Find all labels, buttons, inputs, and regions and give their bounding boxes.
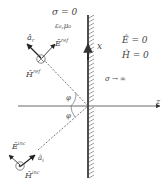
incident-e-field-label: Êinc <box>11 140 26 151</box>
left-conductivity-label: σ = 0 <box>52 7 77 17</box>
angle-arc-reflected <box>71 93 76 106</box>
reflected-unit-vector-label: âr <box>27 33 35 43</box>
incident-unit-vector-label: âi <box>38 154 44 163</box>
reflected-unit-vector-arrow <box>27 44 41 58</box>
reflected-angle-label: φ <box>66 94 71 102</box>
incident-e-field-arrow <box>9 155 20 165</box>
reflected-e-field-label: Êref <box>54 37 69 48</box>
incident-ray <box>38 106 88 150</box>
right-e-field-label: Ê = 0 <box>121 34 148 45</box>
x-axis-label: x <box>97 41 102 51</box>
right-conductivity-label: σ → ∞ <box>105 75 126 83</box>
reflected-h-into-page-icon <box>37 55 45 63</box>
incident-h-field-label: Ĥinc <box>24 169 40 180</box>
reflection-diagram: σ = 0 ε₀,μ₀ x z Ê = 0 Ĥ = 0 σ → ∞ âr Êre… <box>0 0 165 182</box>
conductor-hatching <box>89 15 94 178</box>
left-medium-params-label: ε₀,μ₀ <box>55 22 71 30</box>
angle-arc-incident <box>71 106 75 117</box>
right-h-field-label: Ĥ = 0 <box>121 49 149 60</box>
incident-h-out-of-page-icon <box>16 162 24 170</box>
z-axis-label: z <box>155 97 161 106</box>
reflected-h-field-label: Ĥref <box>25 68 41 79</box>
incident-unit-vector-arrow <box>21 155 35 166</box>
incident-angle-label: φ <box>66 112 71 120</box>
